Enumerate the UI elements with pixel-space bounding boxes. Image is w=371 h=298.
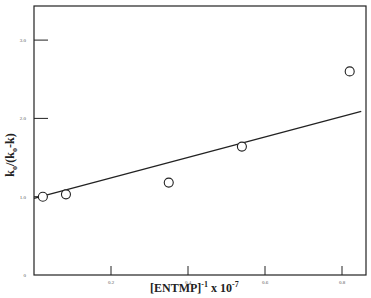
chart-plot-area: 01.02.03.00.20.40.60.8 — [0, 0, 371, 298]
y-tick-label: 3.0 — [20, 38, 27, 43]
data-point — [345, 67, 354, 76]
y-tick-label: 1.0 — [20, 195, 27, 200]
y-axis-label: ko/(ko-k) — [3, 120, 23, 190]
x-axis-label: [ENTMP]-1 x 10-7 — [150, 280, 250, 296]
x-tick-label: 0.6 — [262, 280, 269, 285]
data-point — [237, 142, 246, 151]
y-tick-label: 0 — [24, 273, 27, 278]
x-tick-label: 0.8 — [339, 280, 346, 285]
data-point — [164, 178, 173, 187]
fit-line — [34, 111, 361, 198]
data-point — [61, 190, 70, 199]
plot-frame — [34, 6, 366, 275]
x-tick-label: 0.2 — [108, 280, 115, 285]
data-point — [38, 192, 47, 201]
